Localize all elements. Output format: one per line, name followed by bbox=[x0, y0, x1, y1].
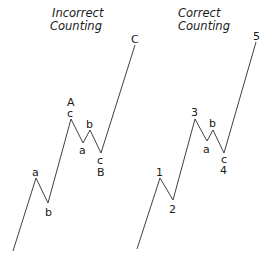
label-wave-1: 1 bbox=[156, 166, 163, 179]
label-a-first: a bbox=[32, 166, 39, 179]
label-C: C bbox=[131, 33, 139, 46]
label-wave-2: 2 bbox=[169, 203, 176, 216]
incorrect-title-line2: Counting bbox=[50, 19, 102, 33]
label-B: B bbox=[97, 166, 105, 179]
correct-title-line1: Correct bbox=[178, 6, 221, 20]
label-wave-4: 4 bbox=[220, 164, 227, 177]
correct-counting-panel: Correct Counting 1 2 3 a b c 4 5 bbox=[137, 6, 260, 249]
incorrect-title-line1: Incorrect bbox=[52, 6, 104, 20]
correct-title-line2: Counting bbox=[178, 19, 230, 33]
label-b: b bbox=[209, 117, 216, 130]
label-a-second: a bbox=[79, 144, 86, 157]
label-b-first: b bbox=[45, 206, 52, 219]
label-b-second: b bbox=[86, 118, 93, 131]
label-c-top: c bbox=[67, 107, 73, 120]
label-wave-5: 5 bbox=[253, 30, 260, 43]
label-wave-3: 3 bbox=[191, 106, 198, 119]
correct-wave-line bbox=[137, 42, 256, 249]
incorrect-wave-line bbox=[13, 45, 135, 251]
wave-count-diagram: Incorrect Counting a b A c a b c B C Cor… bbox=[0, 0, 276, 268]
label-a: a bbox=[203, 143, 210, 156]
incorrect-counting-panel: Incorrect Counting a b A c a b c B C bbox=[13, 6, 139, 251]
